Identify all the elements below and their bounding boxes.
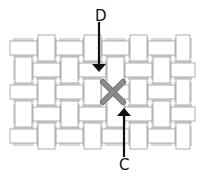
warp-tile	[107, 57, 124, 83]
weft-tile	[56, 129, 83, 143]
warp-tile	[176, 35, 190, 61]
crossing-marker-icon	[102, 81, 124, 103]
warp-tile	[153, 57, 170, 83]
warp-tile	[15, 57, 32, 83]
label-d: D	[95, 9, 107, 24]
weft-tile	[125, 63, 152, 77]
weft-tile	[79, 107, 106, 121]
weft-tile	[33, 63, 60, 77]
label-c: C	[119, 158, 129, 173]
weft-tile	[171, 63, 195, 77]
weave-diagram	[0, 0, 201, 182]
weft-tile	[33, 107, 60, 121]
weft-tile	[10, 41, 37, 55]
warp-tile	[130, 79, 147, 105]
warp-tile	[153, 101, 170, 127]
weft-tile	[10, 129, 37, 143]
weft-tile	[171, 107, 195, 121]
weft-tile	[56, 41, 83, 55]
warp-tile	[176, 79, 190, 105]
weft-tile	[148, 129, 175, 143]
warp-tile	[15, 101, 32, 127]
weft-tile	[102, 41, 129, 55]
weft-tile	[56, 85, 83, 99]
warp-tile	[38, 79, 55, 105]
warp-tile	[38, 35, 55, 61]
weft-tile	[10, 85, 37, 99]
weft-tile	[148, 41, 175, 55]
warp-tile	[130, 123, 147, 149]
warp-tile	[61, 101, 78, 127]
weft-tile	[148, 85, 175, 99]
warp-tile	[61, 57, 78, 83]
warp-tile	[84, 79, 101, 105]
warp-tile	[84, 123, 101, 149]
warp-tile	[130, 35, 147, 61]
warp-tile	[176, 123, 190, 149]
warp-tile	[38, 123, 55, 149]
